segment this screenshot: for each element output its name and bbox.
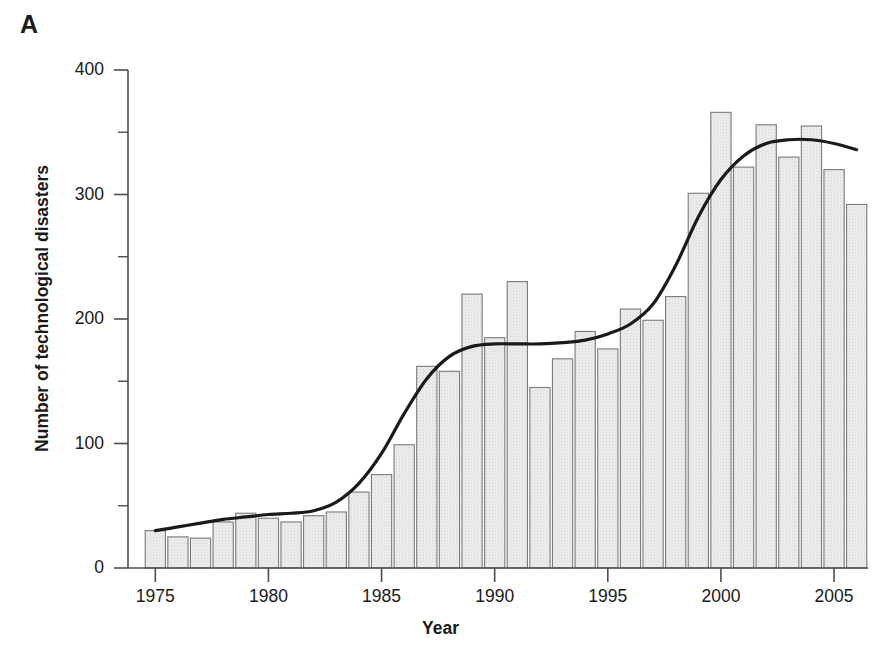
- bar: [168, 537, 188, 568]
- bar: [643, 320, 663, 568]
- bar: [847, 204, 867, 568]
- bar: [349, 492, 369, 568]
- bar: [575, 331, 595, 568]
- bar: [281, 522, 301, 568]
- figure-panel-a: A Number of technological disasters Year…: [0, 0, 881, 659]
- bar: [507, 282, 527, 568]
- chart-canvas: [0, 0, 881, 659]
- bar: [733, 167, 753, 568]
- bar: [801, 126, 821, 568]
- bar: [213, 522, 233, 568]
- bar: [462, 294, 482, 568]
- bar: [236, 513, 256, 568]
- bar: [190, 538, 210, 568]
- bar: [756, 125, 776, 568]
- bar: [598, 349, 618, 568]
- bar: [620, 309, 640, 568]
- bar: [530, 387, 550, 568]
- bar: [258, 518, 278, 568]
- bar: [666, 297, 686, 568]
- bar: [394, 445, 414, 568]
- bars-layer: [145, 112, 867, 568]
- bar: [688, 193, 708, 568]
- bar: [485, 338, 505, 568]
- bar: [304, 516, 324, 568]
- bar: [779, 157, 799, 568]
- bar: [552, 359, 572, 568]
- bar: [417, 366, 437, 568]
- bar: [371, 475, 391, 568]
- bar: [326, 512, 346, 568]
- bar: [145, 531, 165, 568]
- bar: [824, 170, 844, 568]
- bar: [439, 371, 459, 568]
